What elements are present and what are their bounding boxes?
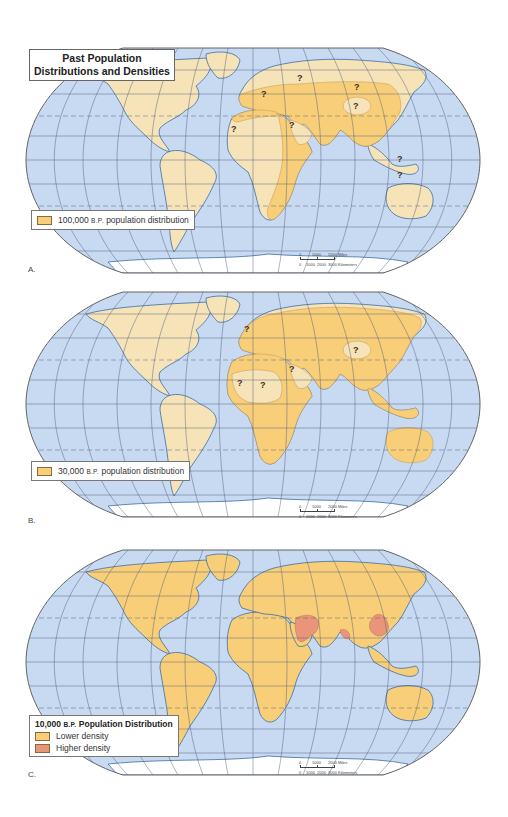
scale-bar-b: 0 1000 2000 Miles 0 1000 2000 3000 Kilom… <box>300 504 390 520</box>
scale-km-0: 0 <box>299 514 301 519</box>
legend-text: population distribution <box>106 215 189 225</box>
svg-text:?: ? <box>231 124 237 134</box>
legend-bp: B.P. <box>86 468 99 475</box>
legend-number: 30,000 <box>58 466 84 476</box>
scale-km-3000: 3000 Kilometers <box>328 514 357 519</box>
figure-title: Past Population Distributions and Densit… <box>29 49 175 81</box>
figure-title-line2: Distributions and Densities <box>34 65 170 78</box>
scale-km-1000: 1000 <box>306 262 315 267</box>
svg-text:?: ? <box>353 101 359 111</box>
scale-km-3000: 3000 Kilometers <box>328 770 357 775</box>
scale-km-3000: 3000 Kilometers <box>328 262 357 267</box>
map-panel-b: ??? ?? 30,000 B.P. population distributi… <box>0 280 508 540</box>
svg-text:?: ? <box>353 345 359 355</box>
svg-text:?: ? <box>397 154 403 164</box>
legend-number: 100,000 <box>58 215 89 225</box>
legend-b: 30,000 B.P. population distribution <box>31 461 190 481</box>
scale-miles-2000: 2000 Miles <box>328 252 347 257</box>
legend-title: 10,000 B.P. Population Distribution <box>35 719 173 729</box>
legend-swatch-population <box>37 216 52 225</box>
svg-text:?: ? <box>297 73 303 83</box>
scale-miles-2000: 2000 Miles <box>328 760 347 765</box>
svg-text:?: ? <box>260 380 266 390</box>
figure-title-line1: Past Population <box>34 52 170 65</box>
scale-km-1000: 1000 <box>306 514 315 519</box>
panel-label-b: B. <box>28 516 36 525</box>
svg-text:?: ? <box>354 82 360 92</box>
svg-text:?: ? <box>289 364 295 374</box>
scale-km-0: 0 <box>299 770 301 775</box>
svg-text:?: ? <box>237 378 243 388</box>
scale-km-2000: 2000 <box>317 262 326 267</box>
scale-km-2000: 2000 <box>317 514 326 519</box>
world-map-c <box>0 540 508 817</box>
scale-km-2000: 2000 <box>317 770 326 775</box>
panel-label-c: C. <box>28 770 36 779</box>
legend-item-higher-density: Higher density <box>35 742 173 754</box>
legend-bp: B.P. <box>91 217 104 224</box>
scale-km-1000: 1000 <box>306 770 315 775</box>
svg-text:?: ? <box>289 120 295 130</box>
svg-text:?: ? <box>244 324 250 334</box>
legend-number: 10,000 <box>35 719 61 729</box>
scale-miles-2000: 2000 Miles <box>328 504 347 509</box>
scale-km-0: 0 <box>299 262 301 267</box>
legend-a: 100,000 B.P. population distribution <box>31 210 195 230</box>
legend-swatch-population <box>37 467 52 476</box>
scale-bar-c: 0 1000 2000 Miles 0 1000 2000 3000 Kilom… <box>300 760 390 776</box>
svg-text:?: ? <box>261 89 267 99</box>
map-panel-c: 10,000 B.P. Population Distribution Lowe… <box>0 540 508 817</box>
scale-bar-a: 0 1000 2000 Miles 0 1000 2000 3000 Kilom… <box>300 252 390 268</box>
panel-label-a: A. <box>28 265 36 274</box>
legend-swatch-lower-density <box>35 732 50 741</box>
legend-bp: B.P. <box>63 721 76 728</box>
legend-swatch-higher-density <box>35 744 50 753</box>
world-map-b: ??? ?? <box>0 280 508 540</box>
legend-label: Lower density <box>56 731 108 741</box>
legend-title-text: Population Distribution <box>79 719 173 729</box>
map-panel-a: ??? ??? ?? Past Population Distributions… <box>0 0 508 280</box>
legend-c: 10,000 B.P. Population Distribution Lowe… <box>29 715 179 757</box>
legend-text: population distribution <box>101 466 184 476</box>
world-map-a: ??? ??? ?? <box>0 0 508 280</box>
svg-text:?: ? <box>397 170 403 180</box>
legend-label: Higher density <box>56 743 110 753</box>
legend-item-lower-density: Lower density <box>35 730 173 742</box>
